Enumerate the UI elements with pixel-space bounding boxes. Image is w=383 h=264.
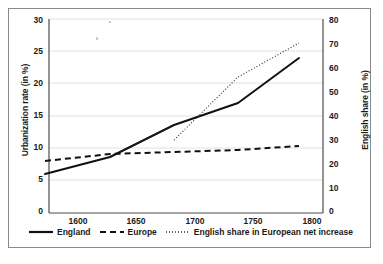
legend-label-english-share: English share in European net increase — [194, 227, 353, 237]
legend-item-english-share[interactable]: English share in European net increase — [166, 227, 353, 237]
scan-artifact — [109, 21, 111, 23]
legend-label-england: England — [57, 227, 91, 237]
chart-legend: England Europe English share in European… — [21, 222, 361, 242]
legend-item-england[interactable]: England — [29, 227, 91, 237]
legend-label-europe: Europe — [128, 227, 157, 237]
chart-frame: Urbanization rate (in %) English share (… — [8, 8, 371, 248]
legend-swatch-solid — [29, 228, 53, 236]
plot-area — [9, 9, 372, 249]
chart-figure: Urbanization rate (in %) English share (… — [0, 0, 383, 264]
legend-item-europe[interactable]: Europe — [100, 227, 157, 237]
legend-swatch-dashed — [100, 228, 124, 236]
legend-swatch-dotted — [166, 228, 190, 236]
scan-artifact — [96, 37, 98, 40]
series-line-english-share — [174, 43, 299, 140]
